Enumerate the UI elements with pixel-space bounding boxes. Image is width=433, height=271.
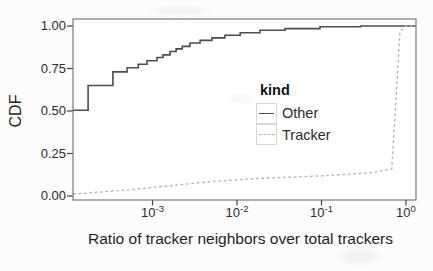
solid-line-sample-icon: [259, 113, 274, 114]
legend-key-solid: [256, 103, 277, 124]
y-tick-label: 0.00: [26, 188, 66, 204]
y-tick-label: 0.75: [26, 61, 66, 77]
legend-entries: OtherTracker: [256, 102, 331, 146]
x-axis-title: Ratio of tracker neighbors over total tr…: [48, 230, 433, 248]
cdf-figure: 1.000.750.500.250.00 10-310-210-1100 Rat…: [0, 0, 433, 271]
x-tick-label: 10-3: [131, 205, 175, 220]
legend-label: Tracker: [282, 127, 331, 143]
y-axis-title: CDF: [7, 61, 25, 161]
legend-label: Other: [282, 105, 318, 121]
y-tick-label: 0.25: [26, 146, 66, 162]
legend-entry-other: Other: [256, 102, 331, 124]
legend-title: kind: [256, 82, 331, 98]
legend-entry-tracker: Tracker: [256, 124, 331, 146]
dashed-line-sample-icon: [259, 134, 275, 135]
legend-key-dashed: [256, 124, 277, 145]
x-tick-label: 100: [384, 205, 428, 220]
y-tick-label: 0.50: [26, 103, 66, 119]
x-tick-label: 10-1: [300, 205, 344, 220]
y-tick-label: 1.00: [26, 18, 66, 34]
x-tick-label: 10-2: [215, 205, 259, 220]
legend: kind OtherTracker: [256, 82, 331, 146]
